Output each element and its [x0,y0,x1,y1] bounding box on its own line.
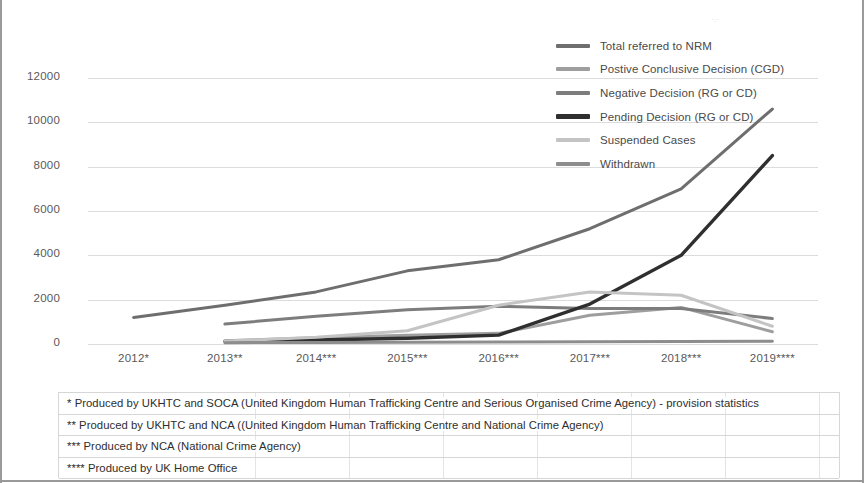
table-column-divider [631,458,632,479]
table-column-divider [725,436,726,457]
legend-label: Total referred to NRM [600,40,712,52]
legend-swatch [556,67,590,71]
footnote-row: **** Produced by UK Home Office [59,458,839,480]
table-column-divider [631,436,632,457]
y-axis-tick-label: 0 [0,336,60,348]
legend-swatch [556,138,590,142]
chart-figure: 020004000600080001000012000 2012*2013**2… [0,0,864,382]
table-column-divider [819,393,820,414]
table-column-divider [349,458,350,479]
y-axis-tick-label: 10000 [0,114,60,126]
table-column-divider [537,458,538,479]
footnote-text: * Produced by UKHTC and SOCA (United Kin… [67,397,761,409]
footnote-text: **** Produced by UK Home Office [67,462,239,474]
y-axis-tick-label: 2000 [0,292,60,304]
series-line [225,341,773,342]
chart-legend: Total referred to NRMPostive Conclusive … [556,34,856,176]
legend-swatch [556,91,590,95]
table-column-divider [631,415,632,436]
legend-item: Suspended Cases [556,128,856,152]
legend-label: Suspended Cases [600,134,695,146]
table-column-divider [443,436,444,457]
legend-label: Pending Decision (RG or CD) [600,111,754,123]
footnote-row: ** Produced by UKHTC and NCA ((United Ki… [59,415,839,437]
legend-item: Negative Decision (RG or CD) [556,81,856,105]
gridline [88,344,818,345]
page-bottom-rule [0,480,864,482]
table-column-divider [255,458,256,479]
legend-swatch [556,114,590,119]
footnotes-table: * Produced by UKHTC and SOCA (United Kin… [58,392,840,478]
legend-label: Withdrawn [600,158,655,170]
scan-artifact: ·.· [712,16,719,23]
series-line [225,156,773,342]
series-line [225,306,773,324]
table-column-divider [725,415,726,436]
y-axis-tick-label: 12000 [0,70,60,82]
legend-label: Postive Conclusive Decision (CGD) [600,63,784,75]
table-column-divider [819,458,820,479]
footnote-row: * Produced by UKHTC and SOCA (United Kin… [59,393,839,415]
legend-item: Withdrawn [556,152,856,176]
table-column-divider [537,436,538,457]
table-column-divider [349,436,350,457]
y-axis-tick-label: 8000 [0,159,60,171]
table-column-divider [443,458,444,479]
legend-swatch [556,162,590,166]
legend-swatch [556,44,590,48]
legend-item: Postive Conclusive Decision (CGD) [556,58,856,82]
table-column-divider [819,415,820,436]
legend-label: Negative Decision (RG or CD) [600,87,757,99]
footnote-text: ** Produced by UKHTC and NCA ((United Ki… [67,419,605,431]
footnote-text: *** Produced by NCA (National Crime Agen… [67,440,303,452]
table-column-divider [819,436,820,457]
x-axis-tick-label: 2019**** [717,352,827,364]
legend-item: Pending Decision (RG or CD) [556,105,856,129]
footnote-row: *** Produced by NCA (National Crime Agen… [59,436,839,458]
y-axis-tick-label: 4000 [0,247,60,259]
table-column-divider [725,458,726,479]
legend-item: Total referred to NRM [556,34,856,58]
y-axis-tick-label: 6000 [0,203,60,215]
